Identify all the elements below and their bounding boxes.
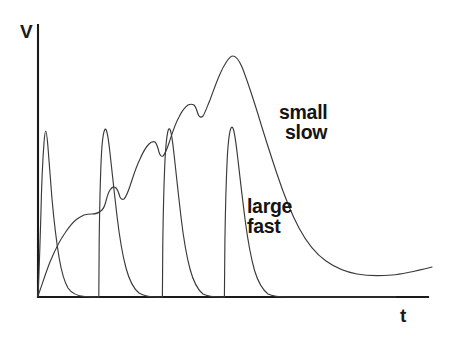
annotation-small-slow-line2: slow [279, 122, 327, 142]
y-axis-label: V [20, 22, 32, 41]
annotation-small-slow-line1: small [279, 101, 327, 123]
annotation-large-fast: large fast [247, 196, 292, 236]
fast-large-curve [38, 127, 396, 297]
plot-svg [0, 0, 457, 338]
figure-container: V t small slow large fast [0, 0, 457, 338]
slow-small-curve [38, 56, 432, 296]
annotation-large-fast-line2: fast [247, 216, 292, 236]
x-axis-label: t [400, 306, 406, 325]
annotation-small-slow: small slow [279, 102, 327, 142]
annotation-large-fast-line1: large [247, 195, 292, 217]
